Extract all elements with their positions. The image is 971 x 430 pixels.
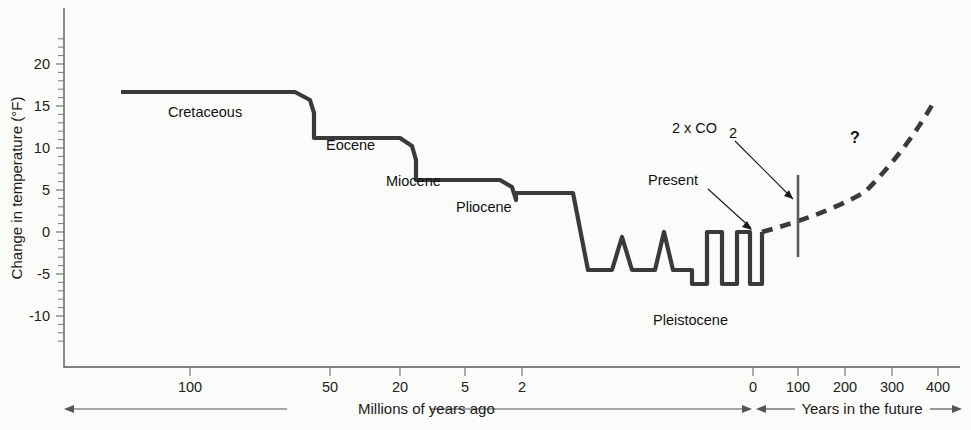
x-tick-label: 0 bbox=[749, 379, 757, 395]
y-tick-label: 10 bbox=[34, 140, 50, 156]
y-tick-label: -10 bbox=[29, 308, 50, 324]
uncertainty-question-mark: ? bbox=[850, 129, 860, 146]
y-tick-label: 20 bbox=[34, 56, 50, 72]
x-axis-label-future: Years in the future bbox=[801, 400, 922, 417]
epoch-label-pleistocene: Pleistocene bbox=[653, 312, 728, 328]
chart-canvas: 20151050-5-10 1005020520100200300400 Cha… bbox=[0, 0, 971, 430]
y-tick-label: 0 bbox=[42, 224, 50, 240]
x-tick-label: 400 bbox=[926, 379, 950, 395]
epoch-label-miocene: Miocene bbox=[386, 173, 441, 189]
chart-background bbox=[0, 0, 971, 430]
epoch-label-eocene: Eocene bbox=[326, 137, 375, 153]
y-axis-title: Change in temperature (°F) bbox=[8, 97, 25, 280]
present-annotation-label: Present bbox=[648, 172, 698, 188]
y-tick-label: -5 bbox=[37, 266, 50, 282]
x-tick-label: 5 bbox=[461, 379, 469, 395]
x-tick-label: 100 bbox=[786, 379, 810, 395]
x-tick-label: 200 bbox=[833, 379, 857, 395]
x-tick-label: 100 bbox=[178, 379, 202, 395]
x-tick-label: 2 bbox=[518, 379, 526, 395]
x-tick-label: 20 bbox=[392, 379, 408, 395]
x-tick-label: 50 bbox=[322, 379, 338, 395]
epoch-label-cretaceous: Cretaceous bbox=[168, 104, 242, 120]
co2-annotation-label: 2 x CO bbox=[672, 120, 717, 136]
temperature-change-chart: 20151050-5-10 1005020520100200300400 Cha… bbox=[0, 0, 971, 430]
co2-annotation-subscript: 2 bbox=[729, 125, 737, 141]
y-tick-label: 5 bbox=[42, 182, 50, 198]
x-axis-label-past: Millions of years ago bbox=[358, 400, 495, 417]
y-tick-label: 15 bbox=[34, 98, 50, 114]
x-tick-label: 300 bbox=[880, 379, 904, 395]
epoch-label-pliocene: Pliocene bbox=[456, 199, 512, 215]
